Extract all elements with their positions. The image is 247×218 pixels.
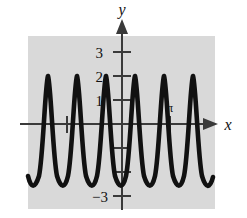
y-tick-label-3: 3 bbox=[96, 45, 104, 61]
y-tick-label-1: 1 bbox=[96, 93, 104, 109]
figure-container: 3 2 1 −3 π x y bbox=[0, 0, 247, 218]
graph-canvas: 3 2 1 −3 π x y bbox=[0, 0, 247, 218]
y-tick-label-minus-3: −3 bbox=[92, 189, 108, 205]
x-tick-label-pi: π bbox=[167, 101, 173, 115]
y-tick-label-2: 2 bbox=[96, 69, 104, 85]
y-axis-label: y bbox=[116, 1, 126, 19]
x-axis-label: x bbox=[223, 116, 231, 133]
